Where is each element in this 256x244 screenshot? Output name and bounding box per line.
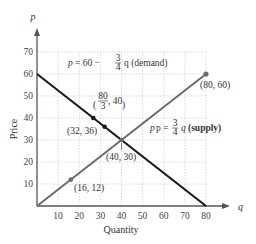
- svg-text:q: q: [181, 123, 186, 133]
- svg-text:80: 80: [98, 91, 108, 101]
- svg-text:4: 4: [116, 62, 121, 72]
- svg-text:p =: p =: [156, 123, 168, 133]
- x-tick: 40: [117, 211, 127, 221]
- y-tick: 40: [24, 113, 34, 123]
- x-tick: 10: [53, 211, 63, 221]
- x-tick: 70: [180, 211, 190, 221]
- x-tick-labels: 10 20 30 40 50 60 70 80: [53, 211, 211, 221]
- x-tick: 60: [159, 211, 169, 221]
- svg-text:(: (: [93, 100, 96, 111]
- x-tick: 50: [138, 211, 148, 221]
- y-tick: 10: [24, 179, 34, 189]
- demand-equation-label: p = 60 − 3 4 q (demand): [67, 53, 168, 72]
- svg-text:, 40: , 40: [108, 96, 123, 106]
- y-axis-arrow-icon: [34, 28, 40, 36]
- annotation-40-30: (40, 30): [106, 152, 136, 163]
- point-80-60: [203, 71, 208, 76]
- x-axis-label: Quantity: [104, 224, 139, 235]
- y-tick: 50: [24, 91, 34, 101]
- y-tick: 30: [24, 135, 34, 145]
- x-tick: 30: [96, 211, 106, 221]
- svg-text:= 60 −: = 60 −: [75, 58, 100, 68]
- svg-text:): ): [122, 100, 125, 111]
- annotation-16-12: (16, 12): [74, 183, 104, 194]
- annotation-32-36: (32, 36): [67, 126, 97, 137]
- x-tick: 80: [201, 211, 211, 221]
- point-40-30: [119, 138, 124, 143]
- svg-text:p: p: [67, 58, 73, 68]
- y-tick: 60: [24, 69, 34, 79]
- point-32-36: [102, 125, 107, 130]
- svg-text:(supply): (supply): [188, 123, 221, 134]
- annotation-80-60: (80, 60): [200, 80, 230, 91]
- svg-text:4: 4: [173, 127, 178, 137]
- y-tick: 20: [24, 157, 34, 167]
- svg-text:p: p: [149, 123, 155, 133]
- p-axis-variable: p: [30, 11, 36, 22]
- q-axis-variable: q: [238, 201, 243, 212]
- annotation-80-3-40: ( 80 3 , 40 ): [93, 91, 125, 111]
- point-80-3-40: [91, 116, 96, 121]
- x-tick: 20: [75, 211, 85, 221]
- x-axis-arrow-icon: [222, 203, 230, 209]
- axes: [34, 28, 230, 209]
- svg-text:3: 3: [101, 101, 106, 111]
- y-tick: 70: [24, 47, 34, 57]
- supply-demand-chart: 10 20 30 40 50 60 70 80 10 20 30 40 50 6…: [0, 0, 256, 244]
- point-16-12: [69, 177, 74, 182]
- svg-text:q (demand): q (demand): [124, 58, 168, 69]
- y-axis-label: Price: [8, 118, 19, 139]
- y-tick-labels: 10 20 30 40 50 60 70: [24, 47, 34, 189]
